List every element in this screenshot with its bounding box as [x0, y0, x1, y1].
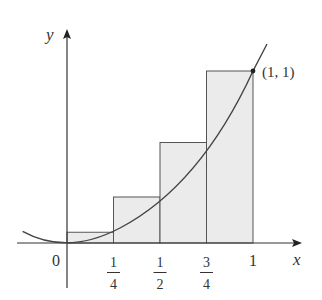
rectangle-4	[207, 71, 254, 243]
point-1-1	[251, 69, 256, 74]
tick-numerator: 1	[110, 255, 117, 270]
x-axis-label: x	[292, 250, 301, 269]
tick-numerator: 1	[157, 255, 164, 270]
origin-label: 0	[52, 252, 60, 269]
tick-numerator: 3	[203, 255, 210, 270]
tick-label-quarter: 1 4	[107, 255, 120, 292]
tick-denominator: 4	[203, 277, 210, 292]
point-label: (1, 1)	[262, 64, 295, 81]
tick-label-three-quarters: 3 4	[200, 255, 213, 292]
tick-label-one: 1	[249, 252, 257, 269]
tick-denominator: 2	[157, 277, 164, 292]
rectangle-3	[160, 143, 207, 244]
tick-label-half: 1 2	[154, 255, 167, 292]
rectangle-2	[114, 197, 161, 243]
riemann-sum-diagram: (1, 1) y x 0 1 4 1 2 3 4 1	[0, 0, 322, 300]
tick-denominator: 4	[110, 277, 117, 292]
riemann-rectangles	[67, 71, 253, 243]
y-axis-label: y	[44, 25, 54, 44]
